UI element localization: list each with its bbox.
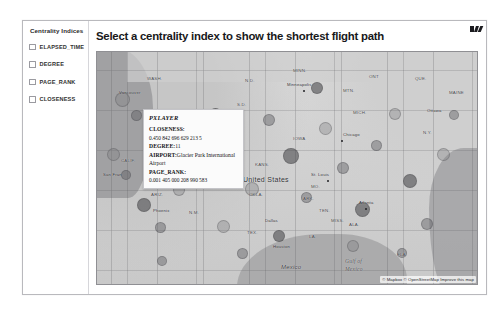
tooltip-row-page-rank: PAGE_RANK: <box>149 168 239 176</box>
map-label-atlanta: Atlanta <box>359 200 373 205</box>
tooltip-key-airport: AIRPORT: <box>149 152 177 158</box>
centrality-sidebar: Centrality Indices ELAPSED_TIME DEGREE P… <box>23 21 89 294</box>
flight-marker[interactable] <box>337 162 349 174</box>
flight-marker[interactable] <box>311 82 323 94</box>
sidebar-item-label: ELAPSED_TIME <box>40 44 85 51</box>
map-label-state: MO. <box>311 184 320 189</box>
window-controls[interactable] <box>470 24 482 33</box>
checkbox-closeness[interactable] <box>29 96 36 103</box>
checkbox-elapsed-time[interactable] <box>29 44 36 51</box>
city-dot <box>365 208 367 210</box>
flight-marker[interactable] <box>107 148 120 161</box>
map-label-state: LA. <box>309 234 316 239</box>
flight-marker[interactable] <box>319 122 332 135</box>
map-label-st-louis: St. Louis <box>311 172 329 177</box>
flight-marker[interactable] <box>283 148 299 164</box>
tooltip-value-closeness: 0.450 842 696 629 213 5 <box>149 134 239 142</box>
map-label-state: MICH. <box>353 110 366 115</box>
flight-marker[interactable] <box>389 108 401 120</box>
city-dot <box>341 140 343 142</box>
map-label-state: ALA. <box>349 222 359 227</box>
flight-marker[interactable] <box>421 218 433 230</box>
map-label-houston: Houston <box>273 244 290 249</box>
sidebar-item-label: DEGREE <box>40 61 65 68</box>
map-label-state: MTN. <box>343 88 355 93</box>
map-label-phoenix: Phoenix <box>153 208 170 213</box>
sidebar-item-closeness[interactable]: CLOSENESS <box>29 94 88 106</box>
map-label-state: N.Y. <box>423 130 432 135</box>
map-label-state: IOWA <box>293 136 305 141</box>
map-label-ottawa: Ottawa <box>427 108 441 113</box>
app-panel: Centrality Indices ELAPSED_TIME DEGREE P… <box>22 20 487 295</box>
flight-marker[interactable] <box>437 148 450 161</box>
map-label-state: OKLA. <box>249 192 263 197</box>
tooltip-key-degree: DEGREE: <box>149 143 175 149</box>
tooltip-value-degree: 11 <box>175 143 180 149</box>
map-label-state: WASH. <box>147 76 162 81</box>
flight-marker[interactable] <box>347 240 359 252</box>
map-label-state: TEX. <box>247 230 258 235</box>
sidebar-title: Centrality Indices <box>30 27 88 35</box>
sidebar-item-elapsed-time[interactable]: ELAPSED_TIME <box>29 41 88 53</box>
city-dot <box>303 90 305 92</box>
tooltip-row-closeness: CLOSENESS: <box>149 125 239 133</box>
tooltip-key-closeness: CLOSENESS: <box>149 126 185 132</box>
map-attribution[interactable]: © Mapbox © OpenStreetMap Improve this ma… <box>380 276 476 283</box>
city-dot <box>327 180 329 182</box>
flight-marker[interactable] <box>237 248 248 259</box>
cropped-top-text <box>0 0 501 13</box>
map-label-state: TEN. <box>319 208 330 213</box>
map-label-state: ARIZ. <box>151 192 163 197</box>
screenshot-root: Centrality Indices ELAPSED_TIME DEGREE P… <box>0 0 501 314</box>
map-label-state: KANS. <box>255 162 269 167</box>
map-label-state: N.M. <box>189 210 199 215</box>
main-content: Select a centrality index to show the sh… <box>89 21 486 294</box>
map-label-state: MAINE <box>449 90 464 95</box>
flight-marker[interactable] <box>263 114 275 126</box>
map-label-state: CALIF. <box>121 158 135 163</box>
map-label-vancouver: Vancouver <box>119 90 141 95</box>
tooltip-row-degree: DEGREE:11 <box>149 142 239 150</box>
map-label-state: FLA. <box>397 252 407 257</box>
checkbox-page-rank[interactable] <box>29 79 36 86</box>
page-title: Select a centrality index to show the sh… <box>89 21 486 43</box>
map-label-dallas: Dallas <box>265 218 278 223</box>
map-label-state: MISS. <box>331 218 344 223</box>
map-label-state: S.D. <box>237 102 246 107</box>
airport-tooltip: PXLAYER CLOSENESS: 0.450 842 696 629 213… <box>143 109 244 189</box>
sidebar-item-page-rank[interactable]: PAGE_RANK <box>29 76 88 88</box>
minimize-icon[interactable] <box>470 26 474 32</box>
flight-marker[interactable] <box>131 110 142 121</box>
map-label-gulf-2: Mexico <box>345 266 363 272</box>
flight-marker[interactable] <box>449 110 459 120</box>
map-label-state: N.D. <box>245 78 255 83</box>
map-label-chicago: Chicago <box>343 132 360 137</box>
tooltip-row-airport: AIRPORT:Glacier Park International Airpo… <box>149 151 239 167</box>
flight-map[interactable]: United States Mexico ONT Vancouver Minne… <box>96 51 478 285</box>
map-label-state: MINN. <box>293 68 306 73</box>
map-label-country-mx: Mexico <box>281 264 301 270</box>
flight-marker[interactable] <box>155 222 166 233</box>
flight-marker[interactable] <box>121 170 131 180</box>
flight-marker[interactable] <box>137 198 151 212</box>
flight-marker[interactable] <box>273 230 285 242</box>
sidebar-item-degree[interactable]: DEGREE <box>29 59 88 71</box>
tooltip-key-page-rank: PAGE_RANK: <box>149 169 186 175</box>
tooltip-value-page-rank: 0.001 405 000 208 990 583 <box>149 176 239 184</box>
sidebar-item-label: CLOSENESS <box>40 96 76 103</box>
sidebar-item-label: PAGE_RANK <box>40 79 76 86</box>
flight-marker[interactable] <box>217 220 230 233</box>
map-label-state: QUE. <box>415 76 427 81</box>
flight-marker[interactable] <box>157 256 167 266</box>
map-label-minneapolis: Minneapolis <box>287 82 312 87</box>
map-label-san-francisco: San Fran <box>103 172 122 177</box>
map-label-gulf-1: Gulf of <box>345 258 362 264</box>
flight-marker[interactable] <box>403 174 417 188</box>
map-label-country-us: United States <box>243 176 289 183</box>
tooltip-title: PXLAYER <box>149 114 239 122</box>
flight-marker[interactable] <box>371 140 382 151</box>
map-label-ont: ONT <box>369 74 379 79</box>
map-label-state: ARK. <box>303 196 314 201</box>
checkbox-degree[interactable] <box>29 61 36 68</box>
